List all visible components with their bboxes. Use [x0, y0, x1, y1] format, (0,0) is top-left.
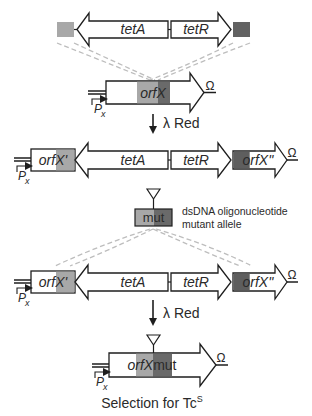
orfXmut-label: orfXmut — [127, 357, 176, 373]
promoter-px-3: P x — [17, 288, 30, 308]
svg-text:orfX': orfX' — [39, 274, 69, 290]
crossover-lines-2 — [55, 229, 252, 266]
lambda-red-step-1: λ Red — [153, 114, 200, 131]
svg-text:Ω: Ω — [217, 351, 226, 365]
mutation-marker-icon-2 — [147, 335, 160, 345]
svg-text:tetA: tetA — [121, 152, 146, 168]
crossover-lines-1 — [57, 43, 250, 80]
svg-text:tetR: tetR — [183, 274, 209, 290]
svg-text:Ω: Ω — [288, 146, 297, 160]
recombineering-diagram: tetA tetR orfX Ω P x λ Red — [0, 0, 312, 416]
promoter-px-4: P x — [95, 372, 108, 392]
terminator-omega: Ω — [206, 79, 215, 93]
svg-text:x: x — [102, 382, 108, 392]
selection-caption: Selection for TcS — [101, 394, 202, 411]
svg-text:x: x — [24, 176, 30, 186]
mutation-marker-icon — [147, 189, 160, 199]
svg-text:orfX'': orfX'' — [242, 274, 274, 290]
intermediate-construct: orfX' tetA tetR orfX'' Ω P x — [14, 143, 298, 186]
tetR-label: tetR — [183, 21, 209, 37]
mutant-oligo: mut dsDNA oligonucleotide mutant allele — [135, 189, 288, 230]
mut-label: mut — [143, 210, 165, 225]
svg-text:x: x — [100, 109, 106, 119]
oligo-description-2: mutant allele — [182, 218, 242, 230]
right-homology-square — [233, 22, 250, 37]
promoter-px: P x — [92, 99, 106, 119]
lambda-red-label-1: λ Red — [163, 115, 200, 131]
orfX-double-prime-label: orfX'' — [242, 152, 274, 168]
tet-cassette: tetA tetR — [57, 13, 250, 46]
orfX-label: orfX — [140, 85, 166, 101]
lambda-red-label-2: λ Red — [163, 305, 200, 321]
target-gene: orfX Ω P x — [88, 73, 216, 119]
oligo-description-1: dsDNA oligonucleotide — [182, 205, 288, 217]
orfX-prime-label: orfX' — [39, 152, 69, 168]
intermediate-construct-2: orfX' tetA tetR orfX'' Ω P x — [14, 265, 298, 308]
svg-text:tetR: tetR — [183, 152, 209, 168]
final-mutant-gene: orfXmut Ω P x — [92, 335, 228, 392]
lambda-red-step-2: λ Red — [153, 300, 200, 322]
tetA-label: tetA — [121, 21, 146, 37]
promoter-px-2: P x — [17, 166, 30, 186]
svg-text:tetA: tetA — [121, 274, 146, 290]
left-homology-square — [57, 22, 74, 37]
svg-text:x: x — [24, 298, 30, 308]
svg-text:Ω: Ω — [288, 268, 297, 282]
